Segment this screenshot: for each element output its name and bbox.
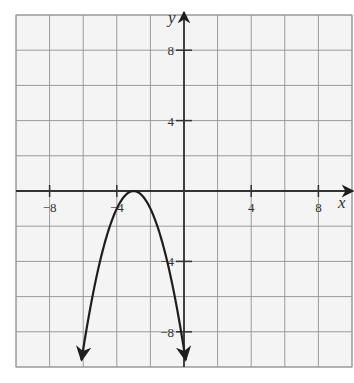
x-tick-label: 8 <box>315 200 322 215</box>
y-tick-label: −8 <box>160 325 174 340</box>
y-tick-label: 8 <box>168 43 175 58</box>
y-tick-label: 4 <box>168 114 175 129</box>
graph: −8−44884−4−8 x y <box>0 0 354 383</box>
x-tick-label: −8 <box>43 200 57 215</box>
x-tick-label: 4 <box>248 200 255 215</box>
y-axis-label: y <box>166 8 176 27</box>
x-axis-label: x <box>337 193 346 212</box>
